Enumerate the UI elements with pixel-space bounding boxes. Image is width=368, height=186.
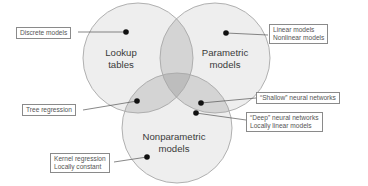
label-tree-regression: Tree regression <box>22 104 76 116</box>
dot-discrete <box>123 29 129 35</box>
nonparametric-models-title: Nonparametric models <box>136 131 212 154</box>
label-linear-nonlinear-models: Linear models Nonlinear models <box>269 24 328 44</box>
parametric-models-title: Parametric models <box>198 47 252 70</box>
dot-deep <box>193 110 199 116</box>
label-kernel-regression: Kernel regression Locally constant <box>50 153 110 173</box>
label-deep-neural-networks: “Deep” neural networks Locally linear mo… <box>246 112 323 132</box>
lookup-tables-title: Lookup tables <box>100 47 142 70</box>
dot-kernel <box>144 154 150 160</box>
dot-linear <box>223 30 229 36</box>
dot-shallow <box>198 100 204 106</box>
label-discrete-models: Discrete models <box>16 27 71 39</box>
label-shallow-neural-networks: “Shallow” neural networks <box>256 92 340 104</box>
dot-tree <box>134 98 140 104</box>
